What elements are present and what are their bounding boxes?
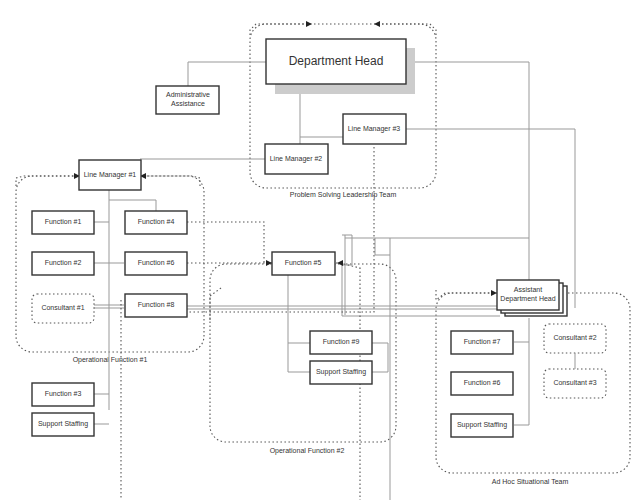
svg-text:Line Manager #3: Line Manager #3 <box>348 125 401 133</box>
svg-text:Function #9: Function #9 <box>323 338 360 345</box>
node-line-manager-1[interactable]: Line Manager #1 <box>79 160 141 190</box>
arrow-icon <box>337 260 343 266</box>
group-label-op2: Operational Function #2 <box>270 447 345 455</box>
node-consultant-1[interactable]: Consultant #1 <box>32 294 94 323</box>
svg-text:Support Staffing: Support Staffing <box>316 368 366 376</box>
node-consultant-2[interactable]: Consultant #2 <box>544 324 606 353</box>
svg-text:Function #1: Function #1 <box>45 218 82 225</box>
node-function-5[interactable]: Function #5 <box>272 252 335 275</box>
svg-text:Function #6: Function #6 <box>138 259 175 266</box>
svg-text:Function #8: Function #8 <box>138 301 175 308</box>
node-function-7[interactable]: Function #7 <box>451 331 513 354</box>
svg-text:Function #3: Function #3 <box>45 390 82 397</box>
svg-text:Consultant #1: Consultant #1 <box>41 304 84 311</box>
group-label-adhoc: Ad Hoc Situational Team <box>492 478 569 485</box>
svg-text:Administrative: Administrative <box>166 91 210 98</box>
node-function-9[interactable]: Function #9 <box>310 331 372 354</box>
node-function-2[interactable]: Function #2 <box>32 252 94 275</box>
node-line-manager-3[interactable]: Line Manager #3 <box>343 114 406 144</box>
node-consultant-3[interactable]: Consultant #3 <box>544 369 606 398</box>
svg-text:Support Staffing: Support Staffing <box>38 420 88 428</box>
node-support-staffing-2[interactable]: Support Staffing <box>310 361 372 384</box>
node-function-4[interactable]: Function #4 <box>125 211 187 234</box>
arrow-icon <box>266 260 272 266</box>
node-support-staffing-3[interactable]: Support Staffing <box>451 414 513 437</box>
group-label-leadership: Problem Solving Leadership Team <box>290 191 397 199</box>
svg-text:Department Head: Department Head <box>500 295 555 303</box>
arrow-icon <box>491 290 497 296</box>
svg-text:Line Manager #1: Line Manager #1 <box>84 171 137 179</box>
svg-text:Function #2: Function #2 <box>45 259 82 266</box>
svg-text:Support Staffing: Support Staffing <box>457 421 507 429</box>
svg-text:Assistant: Assistant <box>514 286 542 293</box>
svg-text:Function #5: Function #5 <box>285 259 322 266</box>
node-assistant-department-head[interactable]: Assistant Department Head <box>497 280 567 316</box>
svg-text:Function #6: Function #6 <box>464 379 501 386</box>
org-chart-canvas: Problem Solving Leadership Team Operatio… <box>0 0 636 501</box>
svg-text:Function #7: Function #7 <box>464 338 501 345</box>
node-department-head[interactable]: Department Head <box>266 39 415 94</box>
group-label-op1: Operational Function #1 <box>73 356 148 364</box>
svg-text:Consultant #2: Consultant #2 <box>553 334 596 341</box>
svg-text:Assistance: Assistance <box>171 100 205 107</box>
svg-text:Line Manager #2: Line Manager #2 <box>270 155 323 163</box>
svg-text:Department Head: Department Head <box>289 54 384 68</box>
node-administrative-assistance[interactable]: Administrative Assistance <box>156 86 219 114</box>
node-support-staffing-1[interactable]: Support Staffing <box>32 413 94 436</box>
node-function-6-adhoc[interactable]: Function #6 <box>451 372 513 395</box>
node-function-6-op1[interactable]: Function #6 <box>125 252 187 275</box>
svg-text:Consultant #3: Consultant #3 <box>553 379 596 386</box>
node-function-8[interactable]: Function #8 <box>125 294 187 317</box>
svg-text:Function #4: Function #4 <box>138 218 175 225</box>
node-function-3[interactable]: Function #3 <box>32 383 94 406</box>
arrow-icon <box>374 21 380 27</box>
node-line-manager-2[interactable]: Line Manager #2 <box>265 144 328 174</box>
arrow-icon <box>306 21 312 27</box>
node-function-1[interactable]: Function #1 <box>32 211 94 234</box>
